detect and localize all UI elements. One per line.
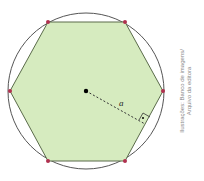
vertex-point: [46, 20, 50, 24]
center-point: [84, 89, 88, 93]
vertex-point: [123, 20, 127, 24]
credit-line-2: Arquivo da editora: [186, 49, 193, 133]
credit-line-1: Ilustrações: Banco de imagens/: [179, 49, 186, 133]
vertex-point: [46, 159, 50, 163]
vertex-point: [8, 89, 12, 93]
vertex-point: [123, 159, 127, 163]
apothem-label: a: [119, 98, 124, 108]
hexagon-diagram: a: [0, 0, 204, 181]
image-credit: Ilustrações: Banco de imagens/ Arquivo d…: [179, 49, 193, 133]
vertex-point: [161, 89, 165, 93]
right-angle-dot: [142, 117, 144, 119]
